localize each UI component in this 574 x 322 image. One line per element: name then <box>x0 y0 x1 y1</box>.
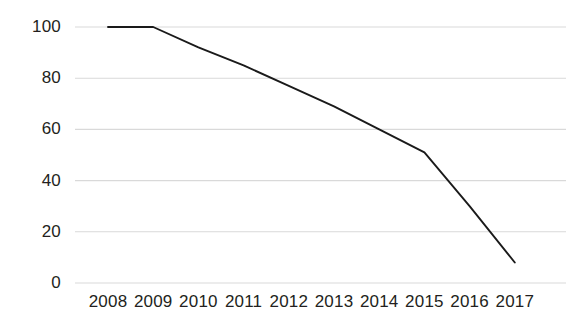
line-chart: 020406080100 200820092010201120122013201… <box>0 0 574 322</box>
x-axis-tick-label: 2017 <box>485 293 545 310</box>
data-line <box>108 27 515 263</box>
y-axis-tick-label: 40 <box>42 172 61 189</box>
plot-area <box>0 0 574 322</box>
data-series-group <box>108 27 515 263</box>
y-axis-tick-label: 100 <box>32 18 61 35</box>
y-axis-tick-label: 0 <box>51 274 61 291</box>
gridlines-group <box>75 27 566 283</box>
y-axis-tick-label: 80 <box>42 69 61 86</box>
y-axis-tick-label: 60 <box>42 120 61 137</box>
y-axis-tick-label: 20 <box>42 223 61 240</box>
